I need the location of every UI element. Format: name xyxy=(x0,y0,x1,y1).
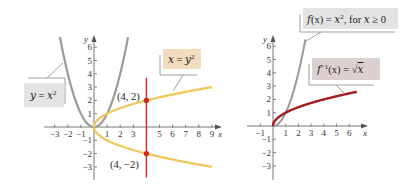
point-lower-label: (4, −2) xyxy=(110,159,139,171)
x-axis-label: x xyxy=(217,129,222,139)
x-tick-label: 6 xyxy=(170,129,175,139)
y-tick-label: −2 xyxy=(82,149,92,159)
label-text: f(x) = x2, for x ≥ 0 xyxy=(306,13,386,26)
y-axis-arrow-icon xyxy=(92,35,97,42)
y-tick-label: −3 xyxy=(261,161,271,171)
x-tick-label: 3 xyxy=(309,128,314,138)
x-tick-label: −2 xyxy=(63,129,73,139)
leader-line xyxy=(173,75,183,91)
leader-line xyxy=(336,85,344,93)
x-tick-label: 7 xyxy=(183,129,188,139)
point-4-2 xyxy=(144,98,149,103)
y-axis-arrow-icon xyxy=(271,35,276,42)
right-graph: f(x) = x2, for x ≥ 0 f−1(x) = √x y −1123… xyxy=(247,8,398,180)
y-ticks: −3−2−1123456 xyxy=(261,41,276,171)
y-tick-label: 6 xyxy=(88,42,93,52)
point-4-neg2 xyxy=(144,151,149,156)
y-tick-label: −1 xyxy=(261,134,271,144)
y-tick-label: −3 xyxy=(82,162,92,172)
label-text: x = y2 xyxy=(168,53,195,65)
label-f-inverse: f−1(x) = √x xyxy=(309,58,380,93)
x-tick-label: 8 xyxy=(197,129,202,139)
label-text: y = x2 xyxy=(29,89,57,101)
y-ticks: −3−2−1123456 xyxy=(82,42,97,172)
label-x-equals-y-squared: x = y2 xyxy=(160,49,201,91)
x-tick-label: 1 xyxy=(105,129,110,139)
y-tick-label: 3 xyxy=(267,81,272,91)
x-tick-label: 3 xyxy=(131,129,136,139)
x-tick-label: 2 xyxy=(296,128,301,138)
figure: y = x2 x = y2 y −3−2−112356789x −3−2−112… xyxy=(0,0,417,191)
x-tick-label: 2 xyxy=(118,129,123,139)
y-tick-label: 2 xyxy=(88,95,93,105)
leader-line xyxy=(47,63,63,78)
x-tick-label: 1 xyxy=(283,128,288,138)
x-axis-label: x xyxy=(362,128,367,138)
x-tick-label: 9 xyxy=(210,129,215,139)
leader-line xyxy=(306,32,321,41)
y-tick-label: −1 xyxy=(82,135,92,145)
y-tick-label: 4 xyxy=(88,69,93,79)
point-upper-label: (4, 2) xyxy=(117,91,140,103)
y-tick-label: 6 xyxy=(267,41,272,51)
left-graph: y = x2 x = y2 y −3−2−112356789x −3−2−112… xyxy=(24,34,222,180)
x-tick-label: −3 xyxy=(50,129,60,139)
x-tick-label: 5 xyxy=(334,128,339,138)
y-tick-label: 1 xyxy=(267,108,272,118)
y-tick-label: 1 xyxy=(88,109,93,119)
x-tick-label: 4 xyxy=(322,128,327,138)
curve-f-inverse xyxy=(273,92,357,126)
x-tick-label: 6 xyxy=(347,128,352,138)
y-tick-label: 4 xyxy=(267,68,272,78)
label-f-of-x: f(x) = x2, for x ≥ 0 xyxy=(300,8,398,41)
y-tick-label: −2 xyxy=(261,148,271,158)
y-tick-label: 5 xyxy=(267,55,272,65)
curve-f-of-x xyxy=(273,40,305,126)
x-tick-label: 5 xyxy=(157,129,162,139)
y-tick-label: 2 xyxy=(267,94,272,104)
y-tick-label: 5 xyxy=(88,56,93,66)
label-y-equals-x-squared: y = x2 xyxy=(24,63,65,107)
y-tick-label: 3 xyxy=(88,82,93,92)
